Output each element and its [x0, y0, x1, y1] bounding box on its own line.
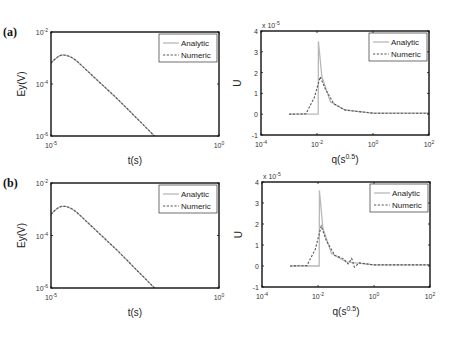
tick-label: 10-4 — [255, 139, 267, 148]
legend: AnalyticNumeric — [159, 185, 217, 213]
numeric-series-line — [51, 55, 155, 136]
chart-b-right: 10-410-2100102-101234x 10-5q(s0.5)UAnaly… — [233, 171, 436, 317]
tick-label: 4 — [254, 28, 258, 35]
numeric-series-line — [289, 77, 429, 114]
tick-label: 1 — [255, 242, 259, 249]
numeric-series-line — [51, 206, 155, 288]
tick-label: 100 — [368, 139, 379, 148]
legend-numeric-label: Numeric — [181, 51, 211, 60]
tick-label: 10-4 — [36, 231, 48, 240]
tick-label: 10-4 — [36, 79, 48, 88]
chart-a-right: 10-410-2100102-101234x 10-5q(s0.5)UAnaly… — [232, 20, 435, 165]
legend-numeric-label: Numeric — [391, 50, 421, 59]
tick-label: -1 — [252, 132, 258, 139]
analytic-series-line — [51, 206, 155, 288]
tick-label: 100 — [214, 140, 225, 149]
figure-canvas: 10-510010-610-410-2t(s)Ey(V)AnalyticNume… — [0, 0, 452, 337]
tick-label: 4 — [255, 179, 259, 186]
tick-label: 2 — [254, 70, 258, 77]
chart-a-left: 10-510010-610-410-2t(s)Ey(V)AnalyticNume… — [16, 27, 225, 166]
tick-label: 10-6 — [36, 131, 48, 140]
numeric-series-line — [290, 226, 430, 267]
tick-label: 10-2 — [312, 291, 324, 300]
legend-analytic-label: Analytic — [181, 39, 209, 48]
x-axis-label: t(s) — [128, 307, 142, 318]
tick-label: 10-5 — [45, 140, 57, 149]
tick-label: 2 — [255, 221, 259, 228]
legend: AnalyticNumeric — [370, 184, 428, 212]
tick-label: 3 — [255, 200, 259, 207]
tick-label: 10-2 — [36, 27, 48, 36]
tick-label: 102 — [424, 139, 435, 148]
tick-label: -1 — [253, 284, 259, 291]
legend: AnalyticNumeric — [159, 34, 217, 62]
x-axis-label: t(s) — [128, 155, 142, 166]
legend-numeric-label: Numeric — [181, 202, 211, 211]
y-multiplier-label: x 10-5 — [262, 20, 280, 29]
tick-label: 10-4 — [256, 291, 268, 300]
tick-label: 10-2 — [311, 139, 323, 148]
tick-label: 100 — [369, 291, 380, 300]
x-axis-label: q(s0.5) — [332, 153, 359, 165]
legend-analytic-label: Analytic — [392, 189, 420, 198]
tick-label: 10-6 — [36, 283, 48, 292]
tick-label: 1 — [254, 90, 258, 97]
chart-b-left: 10-510010-610-410-2t(s)Ey(V)AnalyticNume… — [16, 178, 225, 318]
tick-label: 10-5 — [45, 292, 57, 301]
legend-numeric-label: Numeric — [392, 201, 422, 210]
tick-label: 0 — [254, 111, 258, 118]
analytic-series-line — [51, 55, 155, 136]
tick-label: 10-2 — [36, 178, 48, 187]
y-axis-label: Ey(V) — [16, 223, 27, 248]
tick-label: 102 — [425, 291, 436, 300]
y-axis-label: U — [233, 231, 244, 238]
legend: AnalyticNumeric — [369, 33, 427, 61]
tick-label: 3 — [254, 49, 258, 56]
tick-label: 0 — [255, 263, 259, 270]
y-axis-label: Ey(V) — [16, 72, 27, 97]
tick-label: 100 — [214, 292, 225, 301]
legend-analytic-label: Analytic — [181, 190, 209, 199]
y-multiplier-label: x 10-5 — [263, 171, 281, 180]
x-axis-label: q(s0.5) — [333, 305, 360, 317]
y-axis-label: U — [232, 79, 243, 86]
legend-analytic-label: Analytic — [391, 38, 419, 47]
